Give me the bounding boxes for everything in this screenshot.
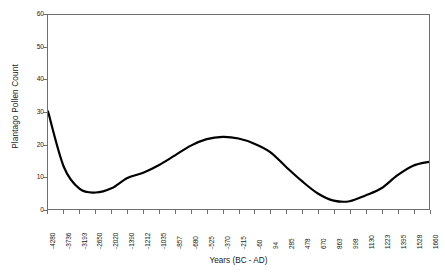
x-axis-tick-mark <box>398 210 399 214</box>
x-axis-tick-label: -4280 <box>50 215 56 249</box>
x-axis-tick-label: -2020 <box>113 215 119 249</box>
x-axis-tick-mark <box>191 210 192 214</box>
x-axis-tick-mark <box>302 210 303 214</box>
plot-area <box>47 14 430 210</box>
x-axis-tick-mark <box>143 210 144 214</box>
x-axis-tick-mark <box>286 210 287 214</box>
x-axis-tick-mark <box>254 210 255 214</box>
y-axis-tick-label: 0 <box>26 207 44 214</box>
y-axis-tick-label: 60 <box>26 11 44 18</box>
y-axis-title-text: Plantago Pollen Count <box>11 64 20 149</box>
y-axis-tick-label: 20 <box>26 141 44 148</box>
x-axis-tick-label: 670 <box>321 215 327 249</box>
x-axis-tick-mark <box>430 210 431 214</box>
x-axis-tick-label: -215 <box>241 215 247 249</box>
x-axis-tick-mark <box>63 210 64 214</box>
x-axis-tick-label: 1528 <box>417 215 423 249</box>
x-axis-tick-label: 1660 <box>433 215 439 249</box>
y-axis-tick-mark <box>43 47 47 48</box>
x-axis-tick-label: 1395 <box>401 215 407 249</box>
x-axis-tick-labels: -4280-3736-3193-2650-2020-1390-1212-1035… <box>47 215 430 251</box>
x-axis-tick-mark <box>366 210 367 214</box>
x-axis-tick-label: 1130 <box>369 215 375 249</box>
x-axis-tick-mark <box>223 210 224 214</box>
y-axis-tick-labels: 0102030405060 <box>26 14 44 210</box>
x-axis-title: Years (BC - AD) <box>47 256 430 265</box>
x-axis-tick-label: -3736 <box>66 215 72 249</box>
pollen-count-line-chart: Plantago Pollen Count 0102030405060 -428… <box>0 0 445 277</box>
x-axis-tick-mark <box>382 210 383 214</box>
x-axis-tick-label: -1035 <box>161 215 167 249</box>
x-axis-tick-mark <box>414 210 415 214</box>
x-axis-tick-mark <box>79 210 80 214</box>
data-line-svg <box>48 15 429 209</box>
x-axis-tick-mark <box>270 210 271 214</box>
x-axis-tick-mark <box>239 210 240 214</box>
x-axis-tick-mark <box>350 210 351 214</box>
y-axis-tick-label: 30 <box>26 109 44 116</box>
x-axis-tick-label: 285 <box>289 215 295 249</box>
y-axis-tick-label: 10 <box>26 174 44 181</box>
x-axis-tick-mark <box>127 210 128 214</box>
x-axis-tick-mark <box>207 210 208 214</box>
x-axis-tick-mark <box>318 210 319 214</box>
y-axis-tick-mark <box>43 177 47 178</box>
x-axis-tick-mark <box>47 210 48 214</box>
y-axis-tick-label: 40 <box>26 76 44 83</box>
x-axis-tick-label: 478 <box>305 215 311 249</box>
x-axis-tick-label: 1223 <box>385 215 391 249</box>
y-axis-tick-label: 50 <box>26 43 44 50</box>
x-axis-tick-label: 863 <box>337 215 343 249</box>
x-axis-tick-mark <box>95 210 96 214</box>
x-axis-tick-label: -370 <box>225 215 231 249</box>
x-axis-tick-label: -857 <box>177 215 183 249</box>
x-axis-tick-label: 94 <box>273 215 279 249</box>
x-axis-tick-label: -680 <box>193 215 199 249</box>
x-axis-tick-mark <box>175 210 176 214</box>
x-axis-tick-label: -1212 <box>145 215 151 249</box>
x-axis-tick-mark <box>334 210 335 214</box>
x-axis-tick-label: -1390 <box>129 215 135 249</box>
x-axis-tick-label: -2650 <box>97 215 103 249</box>
x-axis-tick-label: -525 <box>209 215 215 249</box>
x-axis-tick-mark <box>159 210 160 214</box>
y-axis-tick-mark <box>43 145 47 146</box>
y-axis-tick-mark <box>43 14 47 15</box>
data-line-path <box>48 111 429 201</box>
x-axis-tick-label: -3193 <box>82 215 88 249</box>
y-axis-tick-mark <box>43 112 47 113</box>
y-axis-tick-mark <box>43 79 47 80</box>
x-axis-tick-mark <box>111 210 112 214</box>
x-axis-tick-label: -60 <box>257 215 263 249</box>
x-axis-tick-label: 998 <box>353 215 359 249</box>
